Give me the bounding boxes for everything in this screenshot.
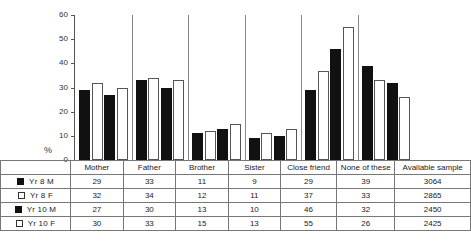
table-cell-value: 11 <box>176 175 229 189</box>
bar <box>161 88 172 161</box>
bar-group <box>358 15 415 160</box>
bar-chart: 0102030405060 % <box>0 0 471 165</box>
table-cell-value: 33 <box>337 189 395 203</box>
bar <box>374 80 385 160</box>
legend-cell: Yr 8 F <box>1 189 71 203</box>
bar <box>362 66 373 160</box>
column-header: Close friend <box>280 161 337 175</box>
bar <box>136 80 147 160</box>
table-header-row: MotherFatherBrotherSisterClose friendNon… <box>1 161 471 175</box>
table-cell-value: 26 <box>337 217 395 231</box>
table-cell-value: 13 <box>228 217 280 231</box>
table-cell-value: 33 <box>123 217 175 231</box>
bar <box>217 129 228 160</box>
bar <box>387 83 398 160</box>
table-corner-cell <box>1 161 71 175</box>
table-cell-available-sample: 2865 <box>395 189 471 203</box>
legend-label: Yr 10 M <box>27 205 56 214</box>
bar <box>117 88 128 161</box>
table-cell-value: 15 <box>176 217 229 231</box>
table-cell-value: 33 <box>123 175 175 189</box>
table-cell-value: 27 <box>70 203 123 217</box>
table-cell-value: 10 <box>228 203 280 217</box>
bar <box>173 80 184 160</box>
legend-swatch-icon <box>16 220 23 227</box>
column-header: None of these <box>337 161 395 175</box>
bar <box>318 71 329 160</box>
table-cell-value: 30 <box>70 217 123 231</box>
table-cell-value: 30 <box>123 203 175 217</box>
legend-swatch-icon <box>15 206 22 213</box>
legend-swatch-icon <box>17 178 24 185</box>
column-header: Father <box>123 161 175 175</box>
table-cell-value: 32 <box>337 203 395 217</box>
bar-group <box>132 15 189 160</box>
bar-group <box>245 15 302 160</box>
table-cell-value: 34 <box>123 189 175 203</box>
figure-root: 0102030405060 % MotherFatherBrotherSiste… <box>0 0 471 250</box>
bar <box>230 124 241 160</box>
legend-label: Yr 10 F <box>28 219 56 228</box>
column-header: Sister <box>228 161 280 175</box>
y-tick-label: 60 <box>48 11 68 19</box>
table-cell-value: 13 <box>176 203 229 217</box>
legend-cell: Yr 10 M <box>1 203 71 217</box>
bar <box>79 90 90 160</box>
data-table-wrapper: MotherFatherBrotherSisterClose friendNon… <box>0 160 471 231</box>
bar <box>92 83 103 160</box>
table-row: Yr 8 F3234121137332865 <box>1 189 471 203</box>
bar <box>148 78 159 160</box>
table-cell-value: 32 <box>70 189 123 203</box>
table-cell-available-sample: 3064 <box>395 175 471 189</box>
y-tick-label: 50 <box>48 35 68 43</box>
plot-area <box>75 15 414 160</box>
bar <box>249 138 260 160</box>
table-cell-value: 39 <box>337 175 395 189</box>
table-cell-value: 37 <box>280 189 337 203</box>
bar-group <box>188 15 245 160</box>
y-tick-label: 40 <box>48 59 68 67</box>
legend-cell: Yr 10 F <box>1 217 71 231</box>
y-tick-label: 20 <box>48 108 68 116</box>
table-cell-value: 29 <box>280 175 337 189</box>
legend-cell: Yr 8 M <box>1 175 71 189</box>
data-table: MotherFatherBrotherSisterClose friendNon… <box>0 160 471 231</box>
bar <box>192 133 203 160</box>
table-cell-value: 12 <box>176 189 229 203</box>
bar <box>330 49 341 160</box>
table-cell-available-sample: 2425 <box>395 217 471 231</box>
y-tick-label: 30 <box>48 84 68 92</box>
bar <box>261 133 272 160</box>
bar <box>399 97 410 160</box>
table-cell-value: 55 <box>280 217 337 231</box>
bar-group <box>301 15 358 160</box>
y-axis-label: % <box>44 145 52 155</box>
bar <box>343 27 354 160</box>
bar <box>286 129 297 160</box>
table-row: Yr 10 F3033151355262425 <box>1 217 471 231</box>
bar <box>274 136 285 160</box>
y-tick-label: 10 <box>48 132 68 140</box>
legend-label: Yr 8 F <box>30 191 53 200</box>
legend-swatch-icon <box>18 192 25 199</box>
column-header-available-sample: Available sample <box>395 161 471 175</box>
table-cell-value: 11 <box>228 189 280 203</box>
column-header: Mother <box>70 161 123 175</box>
table-row: Yr 10 M2730131046322450 <box>1 203 471 217</box>
table-cell-value: 9 <box>228 175 280 189</box>
bar <box>205 131 216 160</box>
table-row: Yr 8 M293311929393064 <box>1 175 471 189</box>
bar <box>305 90 316 160</box>
table-cell-available-sample: 2450 <box>395 203 471 217</box>
table-cell-value: 46 <box>280 203 337 217</box>
column-header: Brother <box>176 161 229 175</box>
table-cell-value: 29 <box>70 175 123 189</box>
bar-group <box>75 15 132 160</box>
legend-label: Yr 8 M <box>29 177 54 186</box>
bar <box>104 95 115 160</box>
